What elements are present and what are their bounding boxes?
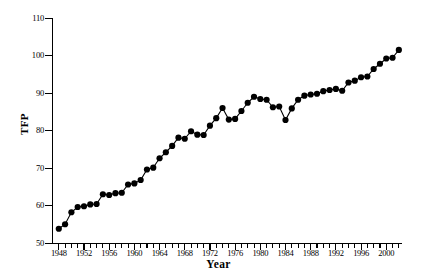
data-point	[320, 88, 326, 94]
x-axis-tick	[197, 244, 198, 248]
y-axis-line	[52, 18, 53, 244]
y-axis-tick-label: 70	[20, 164, 44, 173]
x-axis-line	[52, 243, 402, 244]
x-axis-tick	[172, 244, 173, 248]
x-axis-tick	[398, 244, 399, 248]
data-point	[251, 94, 257, 100]
data-point	[396, 47, 402, 53]
data-point	[301, 93, 307, 99]
data-point	[257, 96, 263, 102]
data-point	[352, 78, 358, 84]
x-axis-tick	[348, 244, 349, 248]
y-axis-tick	[45, 18, 52, 19]
data-point	[314, 91, 320, 97]
data-point	[232, 116, 238, 122]
x-axis-title: Year	[0, 258, 437, 270]
data-point	[150, 165, 156, 171]
data-point	[169, 143, 175, 149]
data-point	[345, 79, 351, 85]
y-axis-title: TFP	[18, 94, 30, 154]
data-point	[175, 135, 181, 141]
x-axis-tick	[146, 244, 147, 248]
data-point	[131, 180, 137, 186]
data-point	[245, 100, 251, 106]
data-point	[138, 177, 144, 183]
data-point	[87, 201, 93, 207]
data-point	[201, 132, 207, 138]
data-point	[144, 166, 150, 172]
y-axis-tick	[45, 205, 52, 206]
data-point	[213, 115, 219, 121]
data-point	[125, 181, 131, 187]
x-axis-tick	[96, 244, 97, 248]
data-point	[289, 105, 295, 111]
data-point	[364, 73, 370, 79]
data-point	[371, 66, 377, 72]
data-point	[93, 201, 99, 207]
data-point	[383, 55, 389, 61]
data-point	[358, 74, 364, 80]
x-axis-tick	[247, 244, 248, 248]
x-axis-tick	[298, 244, 299, 248]
data-point	[194, 132, 200, 138]
data-point	[62, 221, 68, 227]
data-point	[56, 226, 62, 232]
x-axis-tick-label: 2000	[371, 249, 401, 258]
data-point	[339, 88, 345, 94]
x-axis-tick	[222, 244, 223, 248]
x-axis-tick	[272, 244, 273, 248]
data-point	[75, 204, 81, 210]
data-point	[112, 190, 118, 196]
data-point	[188, 128, 194, 134]
data-point	[270, 104, 276, 110]
x-axis-tick	[71, 244, 72, 248]
data-point	[282, 117, 288, 123]
data-point	[68, 209, 74, 215]
data-point	[308, 91, 314, 97]
data-point	[119, 190, 125, 196]
data-point	[81, 203, 87, 209]
data-point	[219, 105, 225, 111]
data-point	[207, 123, 213, 129]
data-point	[377, 61, 383, 67]
data-point	[295, 97, 301, 103]
chart-figure: 5060708090100110 19481952195619601964196…	[0, 0, 437, 278]
x-axis-tick	[323, 244, 324, 248]
y-axis-tick	[45, 130, 52, 131]
data-point	[226, 117, 232, 123]
y-axis-tick-label: 50	[20, 239, 44, 248]
y-axis-tick	[45, 93, 52, 94]
data-point	[276, 103, 282, 109]
y-axis-tick-label: 100	[20, 51, 44, 60]
data-point	[389, 55, 395, 61]
y-axis-tick	[45, 168, 52, 169]
data-point	[106, 192, 112, 198]
data-point	[333, 86, 339, 92]
data-point	[100, 191, 106, 197]
series-line	[59, 50, 399, 229]
y-axis-tick-label: 60	[20, 201, 44, 210]
data-point	[156, 155, 162, 161]
y-axis-tick	[45, 55, 52, 56]
data-series-line	[0, 0, 437, 278]
x-axis-tick	[373, 244, 374, 248]
x-axis-tick	[121, 244, 122, 248]
y-axis-tick	[45, 243, 52, 244]
data-point	[264, 97, 270, 103]
data-point	[326, 87, 332, 93]
data-point	[238, 108, 244, 114]
data-point	[182, 136, 188, 142]
y-axis-tick-label: 110	[20, 14, 44, 23]
data-point	[163, 149, 169, 155]
